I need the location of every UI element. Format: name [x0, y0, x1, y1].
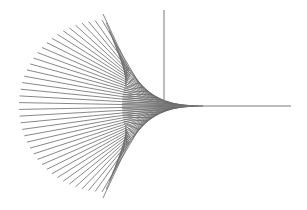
strand-line: [47, 114, 160, 170]
strand-line: [27, 70, 176, 104]
strand-line: [52, 38, 157, 97]
strand-line: [27, 108, 176, 142]
string-art-figure: [0, 0, 307, 210]
strand-line: [57, 117, 154, 178]
strand-line: [106, 23, 129, 73]
strand-line: [42, 48, 162, 100]
strand-line: [57, 34, 154, 95]
strand-line: [34, 110, 169, 154]
strand-line: [42, 112, 162, 164]
strand-line: [106, 139, 129, 189]
strand-line: [52, 115, 157, 174]
strand-line: [47, 43, 160, 99]
strand-line: [34, 58, 169, 102]
